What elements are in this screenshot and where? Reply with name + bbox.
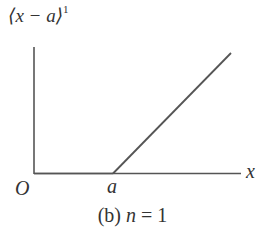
ramp-line: [113, 53, 231, 174]
plot-area: [0, 0, 265, 234]
figure-caption: (b) n = 1: [0, 205, 265, 225]
x-axis-label: x: [246, 161, 255, 181]
a-tick-label: a: [107, 176, 117, 196]
y-axis-label: ⟨x − a⟩1: [8, 6, 69, 25]
origin-label: O: [15, 178, 29, 198]
